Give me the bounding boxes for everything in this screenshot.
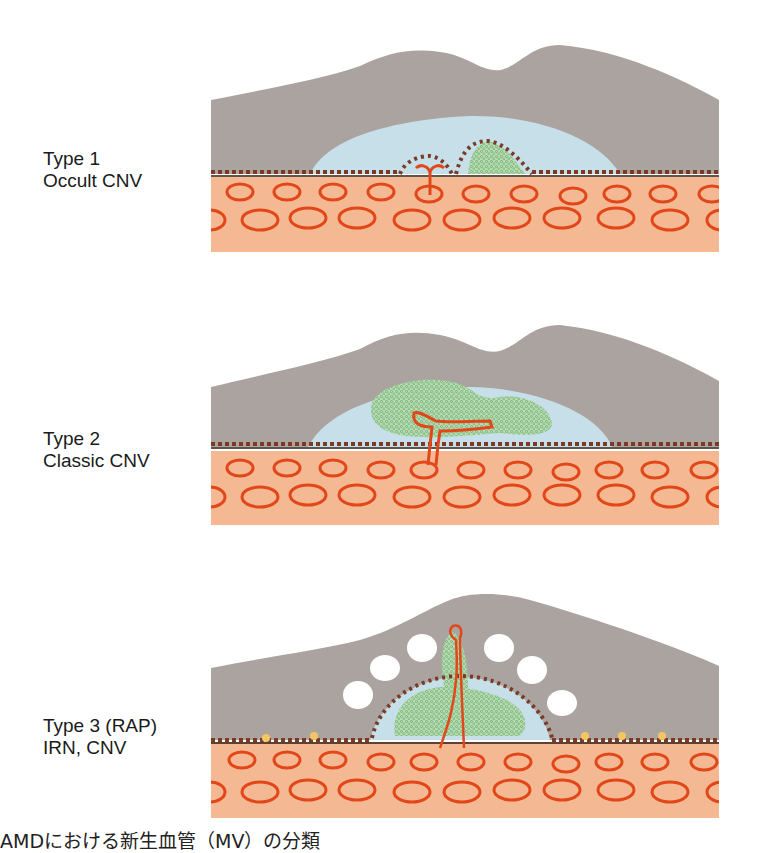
type3-diagram (0, 560, 759, 820)
type1-diagram (0, 0, 759, 270)
type2-diagram (0, 275, 759, 535)
figure-caption: AMDにおける新生血管（MV）の分類 (0, 826, 320, 853)
